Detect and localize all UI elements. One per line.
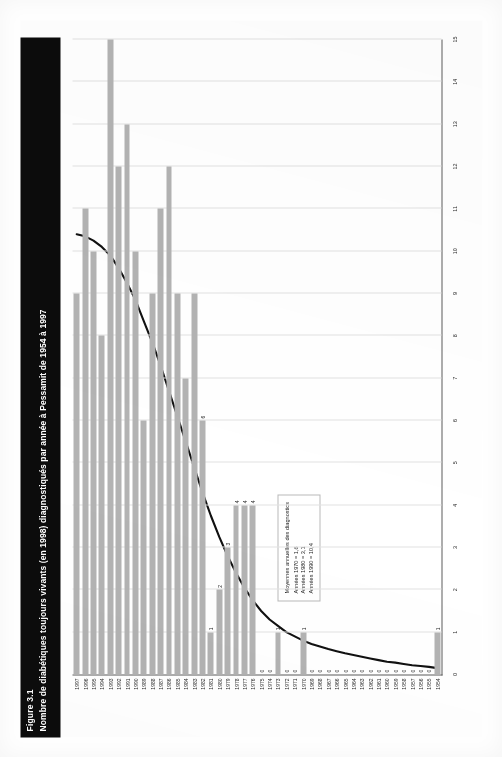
chart-row: 1990	[131, 39, 139, 674]
chart-row: 01955	[424, 39, 432, 674]
value-axis-tick-label: 12	[451, 163, 457, 169]
chart-row: 01963	[357, 39, 365, 674]
chart-row: 1996	[80, 39, 88, 674]
bar	[207, 632, 213, 674]
bar-value-label: 1	[207, 627, 213, 630]
category-axis-label: 1966	[333, 678, 339, 710]
chart-row: 1993	[106, 39, 114, 674]
category-axis-label: 1965	[342, 678, 348, 710]
bar-value-label: 0	[283, 669, 289, 672]
bar	[434, 632, 440, 674]
value-axis-tick-label: 11	[451, 206, 457, 212]
value-axis-tick-label: 3	[451, 546, 457, 549]
value-axis-tick-label: 4	[451, 503, 457, 506]
category-axis-label: 1980	[216, 678, 222, 710]
chart-row: 01960	[382, 39, 390, 674]
category-axis-label: 1989	[140, 678, 146, 710]
bar	[191, 293, 197, 674]
category-axis-label: 1969	[308, 678, 314, 710]
value-axis-tick-label: 2	[451, 588, 457, 591]
category-axis-label: 1984	[182, 678, 188, 710]
bar-value-label: 0	[333, 669, 339, 672]
category-axis-label: 1994	[98, 678, 104, 710]
chart-row: 1995	[89, 39, 97, 674]
bar	[90, 251, 96, 674]
bar	[115, 166, 121, 674]
bar-value-label: 1	[300, 627, 306, 630]
figure-title: Nombre de diabétiques toujours vivants (…	[36, 43, 48, 731]
category-axis-label: 1983	[191, 678, 197, 710]
bar-value-label: 0	[409, 669, 415, 672]
bar	[107, 39, 113, 674]
bar-value-label: 0	[375, 669, 381, 672]
value-axis-tick-label: 15	[451, 36, 457, 42]
value-axis-tick-label: 0	[451, 673, 457, 676]
bar-value-label: 0	[266, 669, 272, 672]
category-axis-label: 1986	[165, 678, 171, 710]
category-axis-label: 1970	[300, 678, 306, 710]
value-axis-tick-label: 6	[451, 419, 457, 422]
category-axis-label: 1974	[266, 678, 272, 710]
category-axis-label: 1992	[115, 678, 121, 710]
value-axis-tick-label: 13	[451, 121, 457, 127]
value-axis-tick-label: 10	[451, 248, 457, 254]
bar	[82, 208, 88, 674]
chart-row: 01965	[340, 39, 348, 674]
bar-value-label: 0	[367, 669, 373, 672]
bar-value-label: 1	[434, 627, 440, 630]
chart-row: 01956	[416, 39, 424, 674]
value-axis-tick-label: 5	[451, 461, 457, 464]
bar	[199, 420, 205, 674]
chart-row: 1989	[139, 39, 147, 674]
category-axis-label: 1982	[199, 678, 205, 710]
category-axis-label: 1956	[417, 678, 423, 710]
category-axis-label: 1958	[400, 678, 406, 710]
category-axis-label: 1963	[358, 678, 364, 710]
bar-value-label: 0	[400, 669, 406, 672]
bar	[224, 547, 230, 674]
chart-row: 1994	[97, 39, 105, 674]
bar	[132, 251, 138, 674]
category-axis-label: 1985	[174, 678, 180, 710]
bar-value-label: 0	[392, 669, 398, 672]
value-axis-tick-label: 14	[451, 78, 457, 84]
category-axis-label: 1961	[375, 678, 381, 710]
chart-row: 11970	[298, 39, 306, 674]
chart-row: 1988	[147, 39, 155, 674]
bar-value-label: 2	[216, 585, 222, 588]
chart-row: 01971	[290, 39, 298, 674]
chart-row: 1991	[122, 39, 130, 674]
chart-row: 01974	[265, 39, 273, 674]
category-axis-label: 1964	[350, 678, 356, 710]
chart-row: 31979	[223, 39, 231, 674]
chart-row: 01958	[399, 39, 407, 674]
value-axis-tick-label: 1	[451, 630, 457, 633]
category-axis-label: 1972	[283, 678, 289, 710]
bar-value-label: 0	[358, 669, 364, 672]
figure-number: Figure 3.1	[24, 43, 35, 731]
bar	[73, 293, 79, 674]
bar	[157, 208, 163, 674]
category-axis-label: 1959	[392, 678, 398, 710]
bar-value-label: 0	[425, 669, 431, 672]
category-axis-label: 1962	[367, 678, 373, 710]
chart-row: 1987	[156, 39, 164, 674]
value-axis-tick-label: 8	[451, 334, 457, 337]
bar	[174, 293, 180, 674]
bar	[216, 589, 222, 674]
chart-row: 61982	[198, 39, 206, 674]
category-axis-label: 1968	[316, 678, 322, 710]
bar	[300, 632, 306, 674]
chart-row: 11973	[273, 39, 281, 674]
rotated-figure-wrapper: Figure 3.1 Nombre de diabétiques toujour…	[20, 20, 482, 737]
chart-row: 1983	[189, 39, 197, 674]
chart-row: 41976	[248, 39, 256, 674]
chart-row: 01957	[407, 39, 415, 674]
category-axis-label: 1988	[149, 678, 155, 710]
bar-value-label: 0	[383, 669, 389, 672]
chart-row: 1992	[114, 39, 122, 674]
category-axis-label: 1955	[425, 678, 431, 710]
chart-row: 1997	[72, 39, 80, 674]
category-axis-label: 1981	[207, 678, 213, 710]
category-axis-label: 1991	[124, 678, 130, 710]
